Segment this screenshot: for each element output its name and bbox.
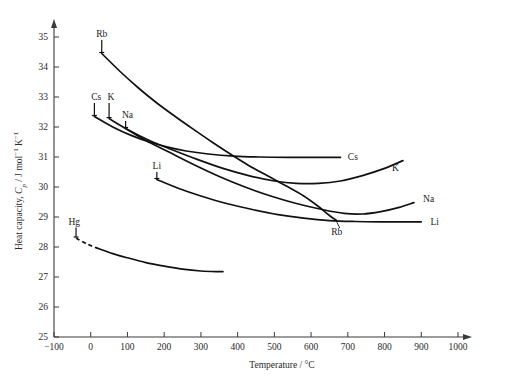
x-axis-arrowhead	[463, 334, 472, 340]
series-end-label-K: K	[392, 163, 399, 173]
y-axis-title-prefix: Heat capacity,	[14, 194, 24, 250]
y-tick-label: 27	[39, 272, 49, 282]
x-axis-title: Temperature / °C	[249, 360, 314, 370]
series-start-label-Li: Li	[153, 161, 162, 171]
y-tick-label: 32	[39, 122, 49, 132]
series-end-label-Cs: Cs	[348, 152, 358, 162]
series-end-label-Rb: Rb	[331, 227, 342, 237]
curve-Na	[126, 129, 414, 215]
curve-Cs	[94, 117, 340, 158]
x-tick-label: 900	[414, 342, 429, 352]
y-tick-label: 33	[39, 92, 49, 102]
y-axis-title-sup2: −1	[12, 131, 20, 139]
y-tick-label: 28	[39, 242, 49, 252]
y-tick-label: 35	[39, 32, 49, 42]
y-axis-arrowhead	[51, 19, 57, 28]
series-start-label-Rb: Rb	[96, 29, 107, 39]
x-tick-label: 600	[304, 342, 319, 352]
x-tick-label: 0	[88, 342, 93, 352]
axes	[51, 19, 472, 340]
x-tick-label: 500	[267, 342, 282, 352]
series-end-label-Li: Li	[430, 217, 439, 227]
heat-capacity-chart: 2526272829303132333435 −1000100200300400…	[0, 0, 512, 378]
svg-text:Heat capacity, Cp / J mol−1 K−: Heat capacity, Cp / J mol−1 K−1	[12, 131, 28, 250]
x-tick-label: 400	[231, 342, 246, 352]
y-axis-title-units: / J mol	[14, 155, 24, 184]
series-start-label-Cs: Cs	[91, 92, 101, 102]
x-tick-label: 1000	[449, 342, 468, 352]
curve-K	[109, 119, 403, 184]
y-tick-label: 34	[39, 62, 49, 72]
curve-Hg	[98, 249, 223, 272]
x-tick-label: 100	[120, 342, 135, 352]
y-axis-ticks: 2526272829303132333435	[39, 32, 60, 342]
y-tick-label: 31	[39, 152, 49, 162]
curve-Hg-extrapolated	[76, 238, 98, 249]
x-tick-label: 200	[157, 342, 172, 352]
series-start-label-Hg: Hg	[68, 217, 80, 227]
y-tick-label: 30	[39, 182, 49, 192]
x-axis-ticks: −10001002003004005006007008009001000	[44, 332, 468, 352]
y-axis-title: Heat capacity, Cp / J mol−1 K−1	[12, 131, 28, 250]
x-tick-label: 700	[341, 342, 356, 352]
x-tick-label: 800	[377, 342, 392, 352]
series-end-label-Na: Na	[423, 194, 435, 204]
x-tick-label: 300	[194, 342, 209, 352]
y-tick-label: 29	[39, 212, 49, 222]
series-start-label-Na: Na	[122, 110, 134, 120]
y-axis-title-units2: K	[14, 139, 24, 148]
y-tick-label: 26	[39, 302, 49, 312]
data-curves	[76, 54, 421, 272]
y-tick-label: 25	[39, 332, 49, 342]
series-start-label-K: K	[107, 92, 114, 102]
x-tick-label: −100	[44, 342, 64, 352]
